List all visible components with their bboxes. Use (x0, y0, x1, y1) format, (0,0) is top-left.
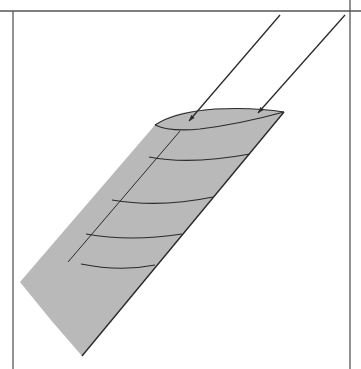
arrow-shaft (189, 15, 280, 121)
arrow-1 (189, 15, 280, 121)
arrows (189, 15, 345, 121)
wing-diagram (0, 0, 361, 369)
wing (20, 108, 284, 356)
wing-surface (20, 109, 284, 356)
arrow-2 (258, 15, 345, 113)
arrow-shaft (258, 15, 345, 113)
